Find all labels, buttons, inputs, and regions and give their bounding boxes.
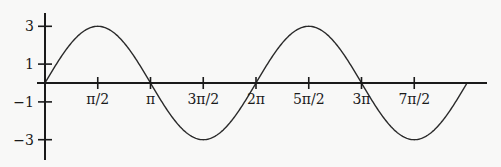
x-tick-label: 5π/2: [293, 91, 325, 107]
axes: [37, 13, 487, 160]
y-tick-label: 1: [25, 56, 34, 72]
x-tick-label: 2π: [247, 91, 265, 107]
x-tick-label: π: [146, 91, 155, 107]
y-tick-label: −3: [13, 132, 34, 148]
sine-chart: π/2π3π/22π5π/23π7π/2 31−1−3: [0, 0, 501, 167]
x-ticks: π/2π3π/22π5π/23π7π/2: [86, 77, 430, 107]
x-tick-label: 7π/2: [398, 91, 430, 107]
y-tick-label: 3: [25, 18, 34, 34]
x-tick-label: 3π/2: [187, 91, 219, 107]
y-tick-label: −1: [13, 94, 34, 110]
x-tick-label: 3π: [352, 91, 370, 107]
x-tick-label: π/2: [86, 91, 109, 107]
